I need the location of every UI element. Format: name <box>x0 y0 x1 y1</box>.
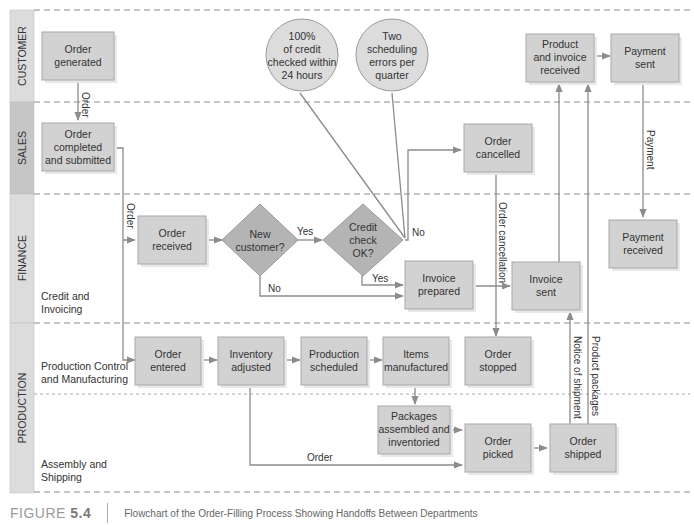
svg-text:Inventory: Inventory <box>229 348 273 360</box>
svg-text:Production: Production <box>309 348 359 360</box>
svg-text:Items: Items <box>403 348 429 360</box>
node-order-shipped: Order shipped <box>550 424 619 475</box>
svg-text:Order: Order <box>155 348 182 360</box>
edge-label-product-packages: Product packages <box>590 336 601 416</box>
svg-text:Invoice: Invoice <box>422 272 455 284</box>
svg-text:OK?: OK? <box>352 247 373 259</box>
svg-text:Order: Order <box>485 135 512 147</box>
svg-text:Order: Order <box>485 348 512 360</box>
svg-text:Two: Two <box>382 30 401 42</box>
svg-text:received: received <box>540 64 580 76</box>
edge-label-yes-1: Yes <box>297 226 313 237</box>
svg-text:Order: Order <box>159 227 186 239</box>
order-filling-flowchart: CUSTOMER SALES FINANCE PRODUCTION Credit… <box>0 0 694 500</box>
caption-text: Flowchart of the Order-Filling Process S… <box>124 508 477 519</box>
svg-text:completed: completed <box>54 141 103 153</box>
edge-label-order-cancellation: Order cancellation <box>497 202 508 283</box>
svg-text:Order: Order <box>570 435 597 447</box>
edge-label-yes-2: Yes <box>372 273 388 284</box>
node-items-manufactured: Items manufactured <box>383 337 452 388</box>
svg-text:Invoice: Invoice <box>529 273 562 285</box>
lane-label-production: PRODUCTION <box>16 373 28 444</box>
svg-text:picked: picked <box>483 448 514 460</box>
node-order-entered: Order entered <box>135 337 204 388</box>
svg-text:customer?: customer? <box>235 241 284 253</box>
node-payment-sent: Payment sent <box>611 34 682 85</box>
svg-text:scheduled: scheduled <box>310 361 358 373</box>
svg-text:of credit: of credit <box>283 43 320 55</box>
node-order-received: Order received <box>138 216 209 267</box>
svg-text:and invoice: and invoice <box>533 51 586 63</box>
node-packages-assembled: Packages assembled and inventoried <box>378 406 453 457</box>
node-invoice-sent: Invoice sent <box>512 262 583 313</box>
svg-text:100%: 100% <box>289 30 316 42</box>
svg-text:Payment: Payment <box>622 231 664 243</box>
figure-label: FIGURE 5.4 <box>10 505 91 521</box>
svg-text:Order: Order <box>65 43 92 55</box>
svg-text:and submitted: and submitted <box>45 154 111 166</box>
node-order-cancelled: Order cancelled <box>464 124 535 175</box>
svg-text:24 hours: 24 hours <box>282 69 323 81</box>
node-order-completed: Order completed and submitted <box>42 123 117 174</box>
svg-text:errors per: errors per <box>369 56 415 68</box>
sublane-production-control-2: and Manufacturing <box>41 373 128 385</box>
svg-text:scheduling: scheduling <box>367 43 417 55</box>
caption-divider <box>107 503 108 523</box>
node-order-generated: Order generated <box>42 32 117 83</box>
lane-label-customer: CUSTOMER <box>16 26 28 86</box>
svg-text:checked within: checked within <box>268 56 337 68</box>
metric-credit-check: 100% of credit checked within 24 hours <box>266 19 338 91</box>
lane-label-finance: FINANCE <box>16 235 28 281</box>
svg-text:quarter: quarter <box>375 69 409 81</box>
svg-text:check: check <box>349 234 377 246</box>
svg-text:received: received <box>152 240 192 252</box>
node-product-invoice-received: Product and invoice received <box>526 34 597 85</box>
svg-text:generated: generated <box>54 56 101 68</box>
edge-label-notice-of-shipment: Notice of shipment <box>572 336 583 419</box>
svg-text:Order: Order <box>65 128 92 140</box>
edge-label-no-2: No <box>412 227 425 238</box>
svg-text:cancelled: cancelled <box>476 148 521 160</box>
sublane-assembly-shipping-2: Shipping <box>41 471 82 483</box>
edge-label-order-3: Order <box>307 452 333 463</box>
node-invoice-prepared: Invoice prepared <box>405 261 476 312</box>
lane-tabs: CUSTOMER SALES FINANCE PRODUCTION <box>10 10 34 493</box>
node-order-picked: Order picked <box>465 424 534 475</box>
node-inventory-adjusted: Inventory adjusted <box>218 337 287 388</box>
sublane-credit-invoicing-2: Invoicing <box>41 303 83 315</box>
svg-text:prepared: prepared <box>418 285 460 297</box>
sublane-production-control-1: Production Control <box>41 360 128 372</box>
svg-text:adjusted: adjusted <box>231 361 271 373</box>
node-payment-received: Payment received <box>609 220 680 271</box>
svg-text:entered: entered <box>150 361 186 373</box>
sublane-credit-invoicing-1: Credit and <box>41 290 90 302</box>
node-production-scheduled: Production scheduled <box>301 337 370 388</box>
svg-text:Credit: Credit <box>349 221 377 233</box>
node-order-stopped: Order stopped <box>465 337 534 388</box>
edge-label-order-1: Order <box>80 92 91 118</box>
edge-label-order-2: Order <box>125 203 136 229</box>
figure-caption: FIGURE 5.4 Flowchart of the Order-Fillin… <box>10 503 478 523</box>
svg-text:Payment: Payment <box>624 45 666 57</box>
metric-scheduling-errors: Two scheduling errors per quarter <box>356 19 428 91</box>
node-new-customer[interactable]: New customer? <box>222 204 298 276</box>
svg-text:manufactured: manufactured <box>384 361 448 373</box>
edge-label-payment: Payment <box>645 130 656 170</box>
svg-text:Packages: Packages <box>391 410 437 422</box>
svg-text:sent: sent <box>635 58 655 70</box>
svg-text:received: received <box>623 244 663 256</box>
svg-text:assembled and: assembled and <box>378 423 449 435</box>
lane-label-sales: SALES <box>16 131 28 165</box>
svg-text:shipped: shipped <box>565 448 602 460</box>
edge-label-no-1: No <box>268 283 281 294</box>
sublane-assembly-shipping-1: Assembly and <box>41 458 107 470</box>
svg-text:inventoried: inventoried <box>388 436 440 448</box>
node-credit-check[interactable]: Credit check OK? <box>323 204 403 276</box>
figure-number: 5.4 <box>70 505 91 521</box>
svg-text:sent: sent <box>536 286 556 298</box>
svg-text:stopped: stopped <box>479 361 517 373</box>
svg-text:Order: Order <box>485 435 512 447</box>
svg-text:Product: Product <box>542 38 578 50</box>
svg-text:New: New <box>249 228 270 240</box>
